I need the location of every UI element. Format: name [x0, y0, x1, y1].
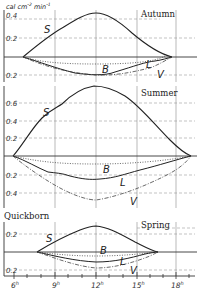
- x-tick-label: 18h: [171, 280, 184, 290]
- y-tick: 0.2: [6, 172, 18, 180]
- curve-label-B: B: [100, 245, 107, 256]
- curve-label-L: L: [120, 177, 126, 188]
- x-tick-label: 6h: [11, 280, 19, 290]
- y-unit-label: cal cm-2 min-1: [6, 2, 51, 11]
- curve-S: [23, 13, 172, 57]
- curve-B: [13, 156, 191, 164]
- curve-label-S: S: [44, 24, 51, 35]
- curve-label-B: B: [103, 164, 110, 175]
- x-tick-label: 9h: [52, 280, 60, 290]
- curve-label-S: S: [43, 107, 50, 118]
- curve-label-L: L: [146, 59, 152, 70]
- curve-label-B: B: [102, 64, 109, 75]
- spring-panel: Quickborn 0.2 0.2 Spring S B L V: [4, 211, 197, 276]
- curve-label-V: V: [157, 69, 165, 80]
- y-tick: 0.2: [6, 267, 18, 275]
- y-tick: 0.4: [6, 118, 17, 126]
- y-tick: 0.2: [6, 35, 18, 43]
- summer-panel: 0.6 0.4 0.2 0.2 0.4 Summer S B L V: [4, 86, 197, 208]
- season-title-summer: Summer: [141, 88, 178, 98]
- y-tick: 0.4: [6, 190, 17, 198]
- season-title-autumn: Autumn: [140, 9, 176, 19]
- location-label: Quickborn: [4, 211, 50, 221]
- curve-label-V: V: [130, 196, 138, 207]
- y-tick: 0.2: [6, 135, 18, 143]
- y-tick: 0.2: [6, 72, 18, 80]
- curve-label-L: L: [120, 256, 126, 267]
- x-tick-label: 15h: [132, 280, 145, 290]
- x-ticks: [14, 272, 189, 279]
- x-axis: 6h 9h 12h 15h 18h: [4, 272, 195, 290]
- curve-label-S: S: [46, 233, 53, 244]
- y-tick: 0.2: [6, 231, 18, 239]
- autumn-panel: cal cm-2 min-1 0.4 0.2 0.2 Autumn S B L …: [4, 2, 197, 82]
- season-title-spring: Spring: [141, 220, 171, 230]
- radiation-chart: cal cm-2 min-1 0.4 0.2 0.2 Autumn S B L …: [0, 0, 201, 293]
- curve-V: [13, 156, 191, 200]
- x-tick-label: 12h: [91, 280, 104, 290]
- y-tick: 0.4: [6, 12, 17, 20]
- y-tick: 0.6: [6, 100, 18, 108]
